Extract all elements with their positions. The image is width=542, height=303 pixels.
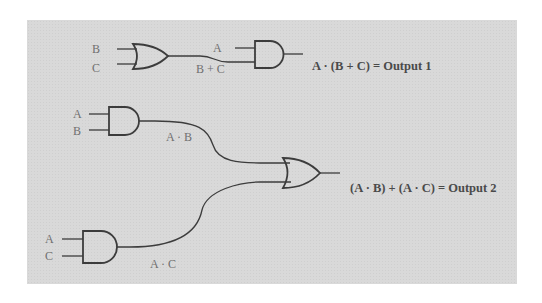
input-label-b: B <box>92 42 100 56</box>
and-gate-icon <box>255 41 283 68</box>
wire-a-and-c <box>117 182 291 247</box>
circuit-2: A B A · B (A · B) + (A · C) = Output 2 A… <box>45 107 497 271</box>
equation-output-2: (A · B) + (A · C) = Output 2 <box>350 181 497 195</box>
label-a-and-b: A · B <box>166 130 192 144</box>
and-gate-icon <box>83 231 117 263</box>
input-label-a: A <box>213 41 222 55</box>
equation-output-1: A · (B + C) = Output 1 <box>312 59 431 73</box>
label-a-and-c: A · C <box>150 257 176 271</box>
and-gate-icon <box>109 107 139 135</box>
label-b-plus-c: B + C <box>196 62 225 76</box>
circuit-1: B C B + C A A · (B + C) = Output 1 <box>92 41 431 76</box>
input-label-a: A <box>73 107 82 121</box>
logic-circuit-diagram: B C B + C A A · (B + C) = Output 1 A B A… <box>0 0 542 303</box>
input-label-c: C <box>45 249 53 263</box>
input-label-a: A <box>45 232 54 246</box>
or-gate-icon <box>133 44 168 69</box>
wire-a-and-b <box>139 121 290 163</box>
input-label-c: C <box>92 61 100 75</box>
input-label-b: B <box>73 124 81 138</box>
